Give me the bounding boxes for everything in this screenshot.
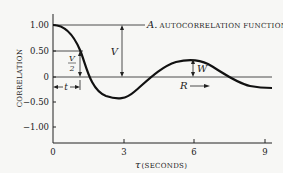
chart-title: A.AUTOCORRELATION FUNCTION	[146, 19, 283, 30]
y-axis-label: CORRELATION	[16, 49, 24, 108]
x-axis-label: τ(SECONDS)	[135, 159, 187, 170]
y-tick-label: 0.50	[30, 46, 49, 56]
x-tick-label: 6	[191, 147, 196, 157]
v-arrow: V	[111, 25, 124, 77]
y-tick-label: 0	[44, 72, 49, 82]
v-half-numerator: V	[69, 54, 76, 63]
x-tick-label: 9	[262, 147, 267, 157]
r-label: R	[179, 80, 188, 91]
r-arrow: R	[179, 80, 210, 91]
y-tick-label: 1.00	[30, 20, 49, 30]
y-tick-label: −0.50	[23, 97, 49, 107]
y-tick-label: −1.00	[23, 122, 49, 132]
t-label: t	[64, 82, 68, 92]
v-half-arrow: V 2	[68, 51, 82, 77]
x-ticks: 0 3 6 9	[50, 139, 267, 157]
autocorrelation-curve	[53, 25, 272, 98]
v-half-denominator: 2	[68, 64, 74, 73]
v-label: V	[111, 46, 120, 57]
x-tick-label: 3	[121, 147, 126, 157]
t-arrow: t	[53, 80, 80, 92]
x-tick-label: 0	[50, 147, 55, 157]
w-label: W	[197, 63, 208, 74]
autocorrelation-chart: 1.00 0.50 0 −0.50 −1.00 0 3 6 9 CORRELAT…	[0, 0, 283, 173]
y-ticks: 1.00 0.50 0 −0.50 −1.00	[23, 20, 56, 132]
